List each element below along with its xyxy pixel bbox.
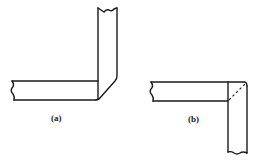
panel-a: (a): [11, 8, 117, 123]
panel-b-bottom-break-line: [228, 152, 247, 154]
diagram-canvas: (a) (b): [0, 0, 259, 162]
panel-a-vertical-member-outer-edge: [96, 8, 117, 100]
panel-a-label: (a): [51, 113, 62, 123]
panel-b-label: (b): [188, 114, 199, 124]
panel-a-left-break-line: [11, 81, 14, 100]
panel-b-mitre-dashed-line: [229, 84, 245, 100]
panel-a-top-break-line: [98, 8, 117, 12]
panel-b-horizontal-member-top-edge: [151, 82, 247, 86]
panel-b-left-break-line: [150, 82, 153, 101]
panel-b: (b): [150, 82, 247, 154]
